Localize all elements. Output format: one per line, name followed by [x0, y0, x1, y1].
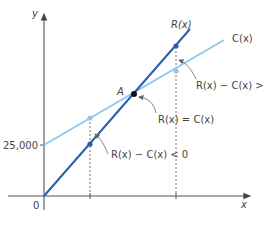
- cost-line-label: C(x): [232, 33, 253, 44]
- revenue-point-right: [173, 43, 178, 48]
- intersection-label: A: [116, 86, 124, 97]
- annotation-break-even: R(x) = C(x): [158, 114, 214, 125]
- annotation-profit: R(x) − C(x) > 0: [196, 80, 266, 91]
- x-axis-label: x: [240, 199, 247, 210]
- y-tick-label: 25,000: [3, 140, 38, 151]
- revenue-point-left: [87, 141, 92, 146]
- annotation-loss: R(x) − C(x) < 0: [111, 149, 188, 160]
- break-even-diagram: y x 0 25,000 R(x) C(x) A R(x) − C(x) > 0…: [0, 0, 266, 225]
- pointer-loss: [95, 134, 108, 154]
- intersection-point-a: [131, 91, 137, 97]
- revenue-line: [44, 29, 190, 196]
- pointer-break-even: [139, 97, 156, 113]
- origin-label: 0: [33, 200, 39, 211]
- cost-point-left: [87, 115, 92, 120]
- revenue-line-label: R(x): [171, 19, 192, 30]
- y-axis-label: y: [31, 8, 39, 19]
- pointer-profit: [179, 60, 196, 79]
- cost-point-right: [173, 68, 178, 73]
